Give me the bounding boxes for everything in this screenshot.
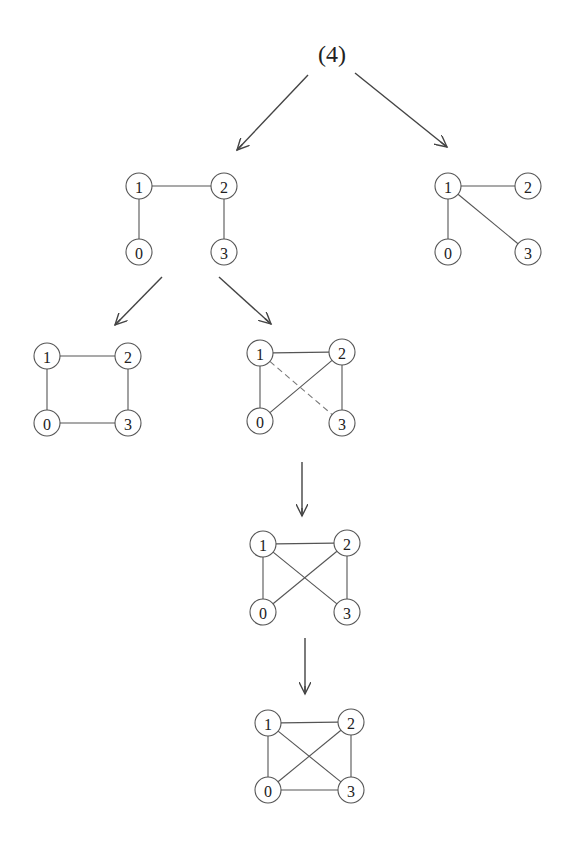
graph-b: 1203 bbox=[435, 173, 541, 265]
graph-e: 1203 bbox=[250, 530, 360, 625]
node-label: 0 bbox=[444, 245, 452, 262]
graphs-layer: 120312031203120312031203 bbox=[34, 173, 541, 803]
node-label: 3 bbox=[338, 416, 346, 433]
edge-1-2 bbox=[276, 543, 334, 544]
node-2: 2 bbox=[515, 173, 541, 199]
node-label: 1 bbox=[43, 349, 51, 366]
node-label: 1 bbox=[259, 537, 267, 554]
node-label: 0 bbox=[259, 605, 267, 622]
node-0: 0 bbox=[250, 599, 276, 625]
node-1: 1 bbox=[34, 343, 60, 369]
graph-f: 1203 bbox=[255, 709, 364, 803]
node-1: 1 bbox=[255, 710, 281, 736]
node-2: 2 bbox=[115, 343, 141, 369]
node-3: 3 bbox=[329, 410, 355, 436]
node-3: 3 bbox=[338, 777, 364, 803]
node-2: 2 bbox=[329, 339, 355, 365]
node-0: 0 bbox=[247, 408, 273, 434]
node-3: 3 bbox=[115, 410, 141, 436]
node-label: 3 bbox=[220, 245, 228, 262]
node-3: 3 bbox=[515, 239, 541, 265]
node-label: 2 bbox=[338, 345, 346, 362]
node-label: 1 bbox=[256, 346, 264, 363]
node-label: 2 bbox=[220, 179, 228, 196]
node-3: 3 bbox=[211, 239, 237, 265]
node-label: 2 bbox=[343, 536, 351, 553]
arrow-icon bbox=[115, 277, 162, 325]
node-label: 3 bbox=[524, 245, 532, 262]
node-label: 1 bbox=[444, 179, 452, 196]
node-1: 1 bbox=[435, 173, 461, 199]
node-0: 0 bbox=[34, 410, 60, 436]
node-label: 0 bbox=[264, 783, 272, 800]
arrow-icon bbox=[237, 75, 308, 150]
graph-d: 1203 bbox=[247, 339, 355, 436]
edge-1-3 bbox=[458, 194, 518, 243]
node-1: 1 bbox=[126, 173, 152, 199]
node-label: 2 bbox=[524, 179, 532, 196]
arrows-layer bbox=[115, 73, 447, 694]
node-2: 2 bbox=[334, 530, 360, 556]
node-label: 1 bbox=[135, 179, 143, 196]
node-label: 0 bbox=[135, 245, 143, 262]
node-label: 2 bbox=[347, 715, 355, 732]
arrow-icon bbox=[355, 73, 447, 147]
node-label: 0 bbox=[43, 416, 51, 433]
node-0: 0 bbox=[126, 239, 152, 265]
graph-c: 1203 bbox=[34, 343, 141, 436]
node-label: 3 bbox=[343, 605, 351, 622]
node-1: 1 bbox=[247, 340, 273, 366]
node-1: 1 bbox=[250, 531, 276, 557]
edge-1-2 bbox=[281, 722, 338, 723]
node-3: 3 bbox=[334, 599, 360, 625]
node-2: 2 bbox=[211, 173, 237, 199]
arrow-icon bbox=[219, 277, 271, 324]
edge-1-3 bbox=[270, 361, 332, 414]
node-0: 0 bbox=[255, 777, 281, 803]
node-label: 3 bbox=[347, 783, 355, 800]
edge-1-2 bbox=[273, 352, 329, 353]
edge-0-2 bbox=[270, 360, 332, 412]
node-0: 0 bbox=[435, 239, 461, 265]
node-label: 0 bbox=[256, 414, 264, 431]
root-label: (4) bbox=[318, 41, 346, 67]
node-2: 2 bbox=[338, 709, 364, 735]
node-label: 1 bbox=[264, 716, 272, 733]
graph-derivation-diagram: (4) 120312031203120312031203 bbox=[0, 0, 581, 857]
node-label: 3 bbox=[124, 416, 132, 433]
node-label: 2 bbox=[124, 349, 132, 366]
graph-a: 1203 bbox=[126, 173, 237, 265]
